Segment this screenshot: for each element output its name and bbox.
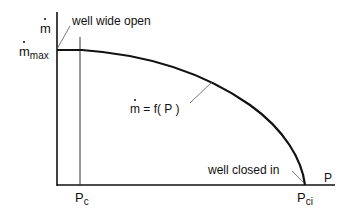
well-closed-in-label: well closed in bbox=[208, 164, 279, 176]
pc-label: Pc bbox=[75, 191, 89, 207]
well-wide-open-label: well wide open bbox=[72, 15, 151, 27]
y-axis-label: m bbox=[40, 21, 51, 36]
pci-sub: ci bbox=[306, 196, 313, 207]
function-rest: = f( P ) bbox=[140, 102, 179, 116]
m-max-main: m bbox=[19, 44, 30, 59]
function-leader bbox=[190, 82, 212, 103]
pc-main: P bbox=[75, 190, 84, 205]
pc-sub: c bbox=[84, 196, 89, 207]
function-m: m bbox=[130, 102, 140, 116]
m-max-sub: max bbox=[30, 50, 49, 61]
pci-label: Pci bbox=[297, 191, 313, 207]
x-axis-label: P bbox=[324, 172, 332, 184]
m-max-label: mmax bbox=[19, 45, 49, 61]
pci-main: P bbox=[297, 190, 306, 205]
wide-open-leader bbox=[57, 26, 70, 49]
function-label: m = f( P ) bbox=[130, 103, 179, 115]
